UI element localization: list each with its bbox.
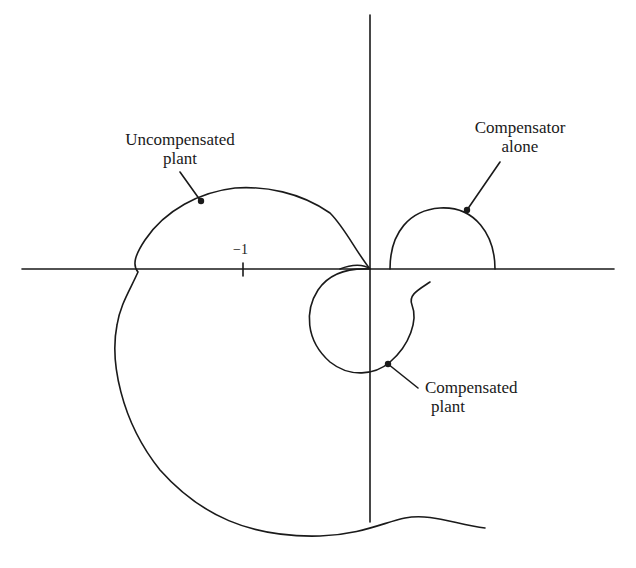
compensator-alone-curve <box>390 208 495 269</box>
compensated-label-line2: plant <box>425 397 518 416</box>
uncompensated-marker <box>198 198 204 204</box>
uncompensated-leader <box>180 172 200 200</box>
compensator-label: Compensator alone <box>450 118 590 156</box>
diagram-svg <box>0 0 636 568</box>
compensator-label-line1: Compensator <box>450 118 590 137</box>
compensated-leader <box>388 364 418 388</box>
uncompensated-label-line2: plant <box>100 149 260 168</box>
minus-one-label: −1 <box>233 242 248 258</box>
uncompensated-label-line1: Uncompensated <box>100 130 260 149</box>
compensator-marker <box>464 207 470 213</box>
uncompensated-plant-curve <box>115 188 485 536</box>
uncompensated-label: Uncompensated plant <box>100 130 260 168</box>
compensated-label-line1: Compensated <box>425 378 518 397</box>
compensator-leader <box>467 162 500 210</box>
nyquist-diagram: −1 Uncompensated plant Compensator alone… <box>0 0 636 568</box>
compensated-label: Compensated plant <box>425 378 518 416</box>
compensator-label-line2: alone <box>450 137 590 156</box>
compensated-marker <box>385 361 391 367</box>
